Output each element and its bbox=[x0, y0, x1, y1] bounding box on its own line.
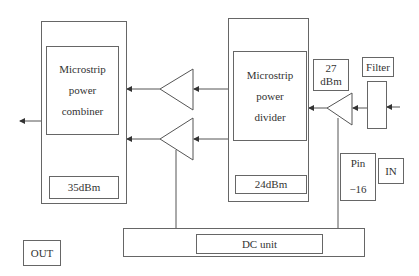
combiner-label-2: power bbox=[69, 80, 97, 101]
combiner-label-3: combiner bbox=[62, 101, 104, 122]
combiner-label-1: Microstrip bbox=[59, 59, 105, 80]
driver-power-unit: dBm bbox=[320, 75, 341, 88]
filter-block bbox=[367, 81, 387, 129]
driver-power-value: 27 bbox=[326, 62, 337, 75]
dc-unit-label: DC unit bbox=[196, 234, 323, 254]
output-label: OUT bbox=[23, 240, 61, 266]
filter-label: Filter bbox=[362, 57, 394, 77]
amplifier-top bbox=[160, 69, 193, 110]
divider-label-3: divider bbox=[254, 107, 285, 128]
divider-power: 24dBm bbox=[235, 175, 307, 194]
combiner-block: Microstrip power combiner bbox=[46, 46, 119, 135]
combiner-power: 35dBm bbox=[49, 176, 119, 199]
divider-block: Microstrip power divider bbox=[233, 51, 307, 141]
driver-power-box: 27 dBm bbox=[313, 59, 349, 91]
divider-label-1: Microstrip bbox=[247, 65, 293, 86]
pin-value: −16 bbox=[341, 182, 375, 197]
pin-box: Pin −16 bbox=[340, 153, 376, 201]
pin-label: Pin bbox=[341, 156, 375, 171]
input-label: IN bbox=[378, 158, 404, 184]
divider-label-2: power bbox=[256, 86, 284, 107]
amplifier-driver bbox=[327, 93, 352, 125]
